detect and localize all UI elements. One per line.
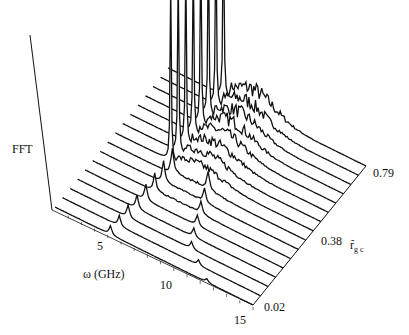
y-axis-label: -rg c bbox=[350, 238, 364, 254]
x-axis-label: ω (GHz) bbox=[83, 267, 125, 282]
spectrum-traces bbox=[55, 0, 366, 305]
spectrum-trace bbox=[55, 207, 253, 305]
y-tick-038: 0.38 bbox=[321, 234, 342, 249]
waterfall-plot bbox=[0, 0, 409, 335]
y-tick-002: 0.02 bbox=[264, 300, 285, 315]
spectrum-trace bbox=[78, 179, 276, 277]
x-tick-10: 10 bbox=[160, 278, 172, 293]
spectrum-trace bbox=[85, 170, 283, 268]
y-axis-label-bar: - bbox=[351, 234, 354, 245]
y-tick-079: 0.79 bbox=[373, 166, 394, 181]
x-tick-5: 5 bbox=[97, 239, 103, 254]
y-axis-label-sub: g c bbox=[354, 245, 364, 254]
z-axis-label: FFT bbox=[12, 142, 33, 157]
x-tick-15: 15 bbox=[234, 313, 246, 328]
